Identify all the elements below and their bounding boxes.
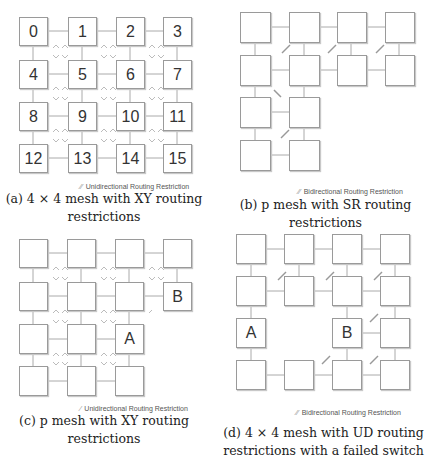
switch-node bbox=[284, 360, 314, 390]
legend-d: ⁄⁄Bidirectional Routing Restriction bbox=[296, 408, 401, 417]
mesh-links-d bbox=[0, 0, 429, 460]
legend-text: Bidirectional Routing Restriction bbox=[302, 409, 401, 416]
switch-node bbox=[236, 234, 266, 264]
restriction-icon: ⁄⁄ bbox=[296, 408, 299, 417]
switch-node bbox=[284, 234, 314, 264]
switch-node bbox=[380, 276, 410, 306]
caption-d-line1: (d) 4 × 4 mesh with UD routing bbox=[218, 425, 429, 440]
switch-node bbox=[380, 234, 410, 264]
switch-node bbox=[380, 318, 410, 348]
switch-node bbox=[332, 360, 362, 390]
switch-node bbox=[332, 276, 362, 306]
switch-node bbox=[380, 360, 410, 390]
switch-node bbox=[236, 276, 266, 306]
panel-d: A B ⁄⁄Bidirectional Routing Restriction … bbox=[0, 0, 429, 460]
switch-node-b: B bbox=[332, 318, 362, 348]
switch-node-a: A bbox=[236, 318, 266, 348]
switch-node bbox=[332, 234, 362, 264]
switch-node bbox=[284, 276, 314, 306]
switch-node bbox=[236, 360, 266, 390]
caption-d-line2: restrictions with a failed switch bbox=[218, 443, 429, 458]
